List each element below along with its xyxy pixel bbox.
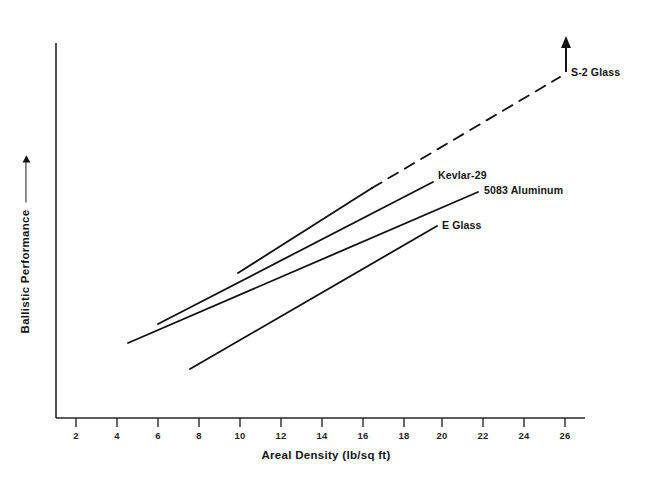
x-tick-label: 16 (358, 430, 369, 441)
y-axis-title: Ballistic Performance (14, 120, 36, 370)
y-axis-title-text: Ballistic Performance (19, 210, 31, 334)
series-label-s2-glass: S-2 Glass (571, 66, 620, 78)
series-line-e-glass (190, 226, 437, 369)
y-axis-increase-arrow-icon (25, 157, 26, 203)
series-label-5083-aluminum: 5083 Aluminum (484, 184, 563, 196)
series-line-s2-glass-solid (238, 188, 372, 273)
x-tick-label: 12 (276, 430, 287, 441)
x-axis-ticks (76, 418, 565, 427)
x-tick-label: 4 (114, 430, 119, 441)
plot-canvas (0, 0, 652, 477)
x-tick-label: 18 (399, 430, 410, 441)
x-tick-label: 2 (73, 430, 78, 441)
x-tick-label: 24 (519, 430, 530, 441)
x-tick-label: 22 (478, 430, 489, 441)
x-axis-title: Areal Density (lb/sq ft) (0, 449, 652, 461)
x-tick-label: 14 (317, 430, 328, 441)
series-label-e-glass: E Glass (442, 219, 482, 231)
s2-glass-up-arrow-icon (561, 36, 571, 72)
x-tick-label: 6 (155, 430, 160, 441)
x-tick-label: 8 (196, 430, 201, 441)
ballistic-performance-chart: 2 4 6 8 10 12 14 16 18 20 22 24 26 S-2 G… (0, 0, 652, 477)
series-line-5083-aluminum (128, 192, 478, 343)
x-tick-label: 10 (235, 430, 246, 441)
series-label-kevlar-29: Kevlar-29 (438, 169, 487, 181)
x-tick-label: 26 (560, 430, 571, 441)
x-tick-label: 20 (437, 430, 448, 441)
